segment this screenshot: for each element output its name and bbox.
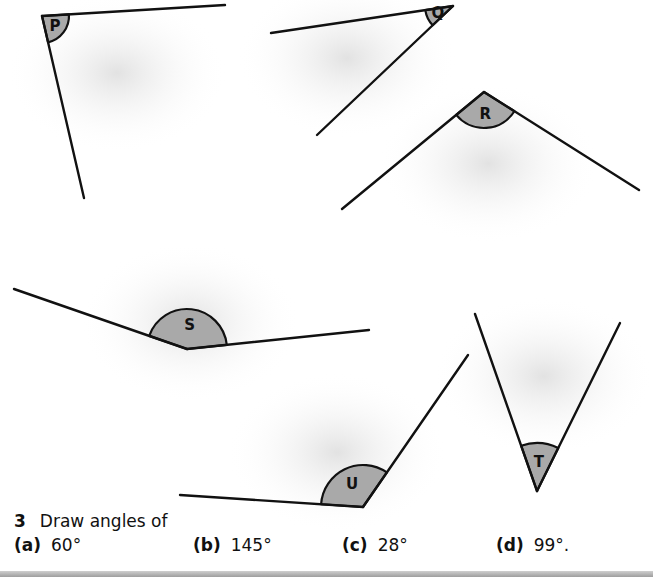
part-c-value: 28° xyxy=(378,535,408,555)
part-d: (d)99°. xyxy=(496,535,569,555)
part-c: (c)28° xyxy=(342,535,408,555)
angle-label-t: T xyxy=(534,453,545,471)
part-d-label: (d) xyxy=(496,535,524,555)
part-d-value: 99°. xyxy=(534,535,570,555)
part-a-label: (a) xyxy=(14,535,41,555)
angle-label-s: S xyxy=(184,316,195,334)
angle-label-q: Q xyxy=(432,4,445,22)
part-b-label: (b) xyxy=(193,535,221,555)
exercise-instruction-line: 3Draw angles of xyxy=(14,511,167,531)
shading-u xyxy=(227,372,447,532)
part-b-value: 145° xyxy=(231,535,272,555)
exercise-instruction: Draw angles of xyxy=(40,511,168,531)
part-a-value: 60° xyxy=(51,535,81,555)
angle-label-p: P xyxy=(49,17,60,35)
angle-label-u: U xyxy=(346,475,358,493)
shading-t xyxy=(434,296,653,456)
exercise-number: 3 xyxy=(14,511,26,531)
angle-label-r: R xyxy=(480,105,492,123)
page-bottom-edge xyxy=(0,571,653,577)
part-b: (b)145° xyxy=(193,535,272,555)
angles-figure: PQRSUT xyxy=(0,0,653,577)
part-c-label: (c) xyxy=(342,535,368,555)
shading-p xyxy=(7,0,227,153)
part-a: (a)60° xyxy=(14,535,81,555)
